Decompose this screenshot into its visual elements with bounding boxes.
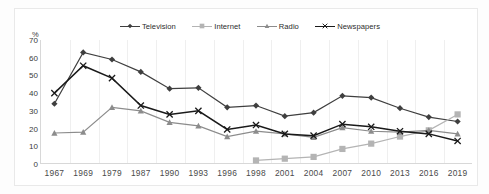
legend-label: Internet bbox=[214, 22, 240, 31]
x-tick-label: 1993 bbox=[188, 168, 208, 178]
data-point-marker bbox=[109, 56, 115, 62]
data-point-marker bbox=[426, 114, 432, 120]
y-tick-label: 30 bbox=[29, 106, 38, 115]
x-tick-label: 1987 bbox=[131, 168, 151, 178]
data-point-marker bbox=[455, 118, 461, 124]
x-tick-label: 1969 bbox=[73, 168, 93, 178]
y-tick-label: 50 bbox=[29, 71, 38, 80]
series-layer bbox=[40, 40, 472, 164]
y-tick-label: 0 bbox=[34, 160, 38, 169]
legend-marker-cross-icon bbox=[315, 22, 335, 31]
data-point-marker bbox=[253, 157, 259, 163]
y-tick-label: 20 bbox=[29, 124, 38, 133]
legend-item-internet[interactable]: Internet bbox=[192, 22, 240, 31]
data-point-marker bbox=[397, 105, 403, 111]
data-point-marker bbox=[80, 63, 86, 69]
legend-item-radio[interactable]: Radio bbox=[257, 22, 299, 31]
data-point-marker bbox=[51, 90, 57, 96]
series-television bbox=[51, 49, 460, 124]
data-point-marker bbox=[51, 101, 57, 107]
x-tick-label: 2001 bbox=[275, 168, 295, 178]
plot-area bbox=[40, 40, 472, 164]
legend-label: Newspapers bbox=[337, 22, 380, 31]
data-point-marker bbox=[109, 75, 115, 81]
y-tick-label: 10 bbox=[29, 142, 38, 151]
legend-marker-triangle-icon bbox=[257, 22, 277, 31]
legend-marker-diamond-icon bbox=[120, 22, 140, 31]
legend-marker-square-icon bbox=[192, 22, 212, 31]
data-point-marker bbox=[80, 49, 86, 55]
x-tick-label: 2010 bbox=[361, 168, 381, 178]
x-tick-label: 1998 bbox=[246, 168, 266, 178]
data-point-marker bbox=[339, 146, 345, 152]
x-tick-label: 2013 bbox=[390, 168, 410, 178]
data-point-marker bbox=[253, 102, 259, 108]
data-point-marker bbox=[138, 69, 144, 75]
data-point-marker bbox=[311, 110, 317, 116]
data-point-marker bbox=[311, 154, 317, 160]
data-point-marker bbox=[282, 156, 288, 162]
legend-label: Radio bbox=[279, 22, 299, 31]
x-tick-label: 1996 bbox=[217, 168, 237, 178]
series-line bbox=[256, 114, 458, 160]
x-tick-label: 1979 bbox=[102, 168, 122, 178]
legend-item-television[interactable]: Television bbox=[120, 22, 176, 31]
data-point-marker bbox=[368, 94, 374, 100]
x-tick-label: 2004 bbox=[304, 168, 324, 178]
x-tick-label: 2016 bbox=[419, 168, 439, 178]
legend-label: Television bbox=[142, 22, 176, 31]
x-tick-label: 1967 bbox=[44, 168, 64, 178]
data-point-marker bbox=[167, 86, 173, 92]
data-point-marker bbox=[339, 93, 345, 99]
y-axis-tick-labels: 706050403020100 bbox=[14, 33, 38, 164]
x-tick-label: 2007 bbox=[332, 168, 352, 178]
y-tick-label: 70 bbox=[29, 36, 38, 45]
chart-legend: TelevisionInternetRadioNewspapers bbox=[120, 19, 380, 33]
y-tick-label: 40 bbox=[29, 89, 38, 98]
data-point-marker bbox=[455, 111, 461, 117]
x-axis-tick-labels: 1967196919791987199019931996199820012004… bbox=[40, 168, 472, 184]
x-tick-label: 2019 bbox=[448, 168, 468, 178]
data-point-marker bbox=[282, 113, 288, 119]
series-line bbox=[54, 52, 457, 121]
x-tick-label: 1990 bbox=[160, 168, 180, 178]
legend-item-newspapers[interactable]: Newspapers bbox=[315, 22, 380, 31]
line-chart: TelevisionInternetRadioNewspapers % 7060… bbox=[0, 0, 489, 194]
y-tick-label: 60 bbox=[29, 53, 38, 62]
data-point-marker bbox=[368, 141, 374, 147]
